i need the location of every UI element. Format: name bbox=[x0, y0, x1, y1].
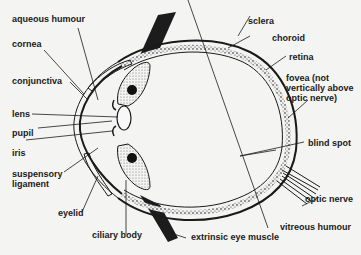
label-lens: lens bbox=[12, 109, 30, 119]
eye-cross-section-figure: aqueous humour cornea conjunctiva lens p… bbox=[0, 0, 361, 255]
label-choroid: choroid bbox=[272, 33, 305, 43]
ciliary-body-lower bbox=[118, 144, 150, 190]
label-eyelid: eyelid bbox=[58, 208, 84, 218]
label-aqueous-humour: aqueous humour bbox=[12, 14, 85, 24]
cornea bbox=[80, 66, 122, 194]
label-cornea: cornea bbox=[12, 39, 43, 49]
label-retina: retina bbox=[289, 52, 315, 62]
label-fovea-1: fovea (not bbox=[286, 73, 329, 83]
eye-diagram: aqueous humour cornea conjunctiva lens p… bbox=[0, 0, 361, 255]
label-sclera: sclera bbox=[248, 16, 275, 26]
ciliary-muscle-lower bbox=[127, 153, 137, 163]
label-fovea-2: vertically above bbox=[286, 83, 354, 93]
lens bbox=[117, 106, 131, 130]
label-optic-nerve: optic nerve bbox=[305, 194, 353, 204]
label-extrinsic-eye-muscle: extrinsic eye muscle bbox=[191, 232, 279, 242]
ciliary-muscle-upper bbox=[127, 85, 137, 95]
label-conjunctiva: conjunctiva bbox=[12, 76, 63, 86]
label-iris: iris bbox=[12, 148, 26, 158]
label-vitreous-humour: vitreous humour bbox=[280, 222, 352, 232]
ciliary-body-upper bbox=[118, 62, 150, 106]
label-suspensory-ligament-2: ligament bbox=[12, 179, 49, 189]
label-pupil: pupil bbox=[12, 128, 34, 138]
iris-upper bbox=[113, 100, 116, 110]
label-ciliary-body: ciliary body bbox=[92, 230, 142, 240]
iris-lower bbox=[113, 126, 116, 136]
label-fovea-3: optic nerve) bbox=[286, 93, 337, 103]
label-blind-spot: blind spot bbox=[308, 138, 351, 148]
label-suspensory-ligament-1: suspensory bbox=[12, 169, 63, 179]
